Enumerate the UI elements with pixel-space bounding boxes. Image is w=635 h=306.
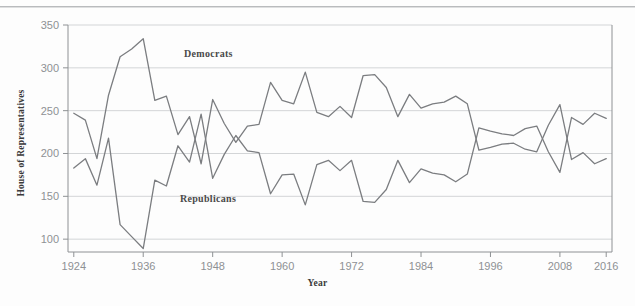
data-series-group (74, 39, 606, 249)
x-axis-label: Year (0, 278, 635, 288)
y-tick-label: 200 (41, 147, 59, 159)
tick-labels-group: 1001502002503003501924193619481960197219… (41, 19, 619, 272)
y-tick-label: 250 (41, 105, 59, 117)
y-tick-label: 350 (41, 19, 59, 31)
x-tick-label: 2008 (548, 260, 572, 272)
x-tick-label: 1960 (270, 260, 294, 272)
x-tick-label: 1984 (409, 260, 433, 272)
republicans-series-label: Republicans (180, 193, 236, 204)
democrats-series-label: Democrats (184, 48, 233, 59)
x-tick-label: 1972 (339, 260, 363, 272)
series-line-republicans (74, 113, 606, 248)
x-tick-label: 1924 (62, 260, 86, 272)
axis-lines-group (68, 25, 612, 252)
y-tick-label: 100 (41, 233, 59, 245)
line-chart-plot: 1001502002503003501924193619481960197219… (0, 0, 635, 306)
y-axis-label: House of Representatives (16, 48, 26, 238)
x-tick-label: 1996 (478, 260, 502, 272)
x-tick-label: 2016 (594, 260, 618, 272)
chart-figure: 1001502002503003501924193619481960197219… (0, 0, 635, 306)
x-tick-label: 1948 (200, 260, 224, 272)
axis-ticks-group (63, 25, 606, 257)
series-line-democrats (74, 39, 606, 164)
y-tick-label: 150 (41, 190, 59, 202)
y-tick-label: 300 (41, 62, 59, 74)
x-tick-label: 1936 (131, 260, 155, 272)
